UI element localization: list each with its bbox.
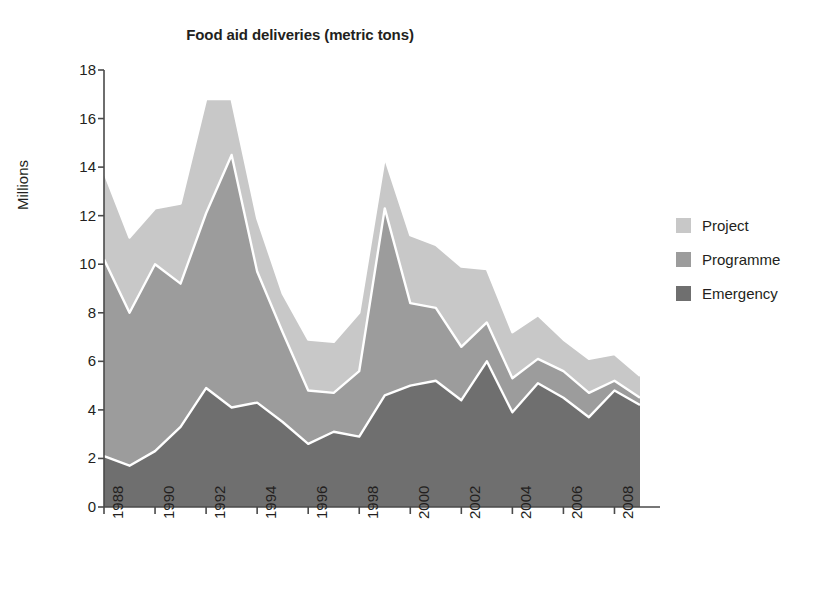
x-tick-label: 1998 bbox=[365, 486, 380, 519]
legend-item-programme[interactable]: Programme bbox=[676, 242, 836, 276]
chart-legend: ProjectProgrammeEmergency bbox=[676, 208, 836, 310]
legend-label: Emergency bbox=[702, 285, 778, 302]
x-tick-label: 2008 bbox=[620, 486, 635, 519]
x-tick-label: 1996 bbox=[314, 486, 329, 519]
x-tick-label: 1990 bbox=[161, 486, 176, 519]
x-tick-label: 1992 bbox=[212, 486, 227, 519]
legend-item-project[interactable]: Project bbox=[676, 208, 836, 242]
x-tick-label: 1988 bbox=[110, 486, 125, 519]
chart-figure: Food aid deliveries (metric tons) 024681… bbox=[0, 0, 837, 591]
x-tick-label: 1994 bbox=[263, 486, 278, 519]
x-tick-label: 2002 bbox=[467, 486, 482, 519]
x-tick-label: 2004 bbox=[518, 486, 533, 519]
legend-swatch-icon bbox=[676, 286, 691, 301]
legend-label: Project bbox=[702, 217, 749, 234]
legend-item-emergency[interactable]: Emergency bbox=[676, 276, 836, 310]
legend-swatch-icon bbox=[676, 218, 691, 233]
x-tick-label: 2000 bbox=[416, 486, 431, 519]
y-axis-title: Millions bbox=[14, 120, 31, 250]
x-tick-label: 2006 bbox=[569, 486, 584, 519]
legend-label: Programme bbox=[702, 251, 780, 268]
legend-swatch-icon bbox=[676, 252, 691, 267]
